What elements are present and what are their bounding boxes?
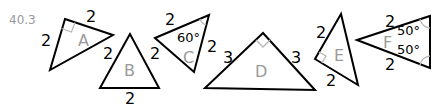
triangle-e: 2 2 E [315, 14, 358, 90]
angle-arc-f-top [420, 19, 430, 28]
triangle-name-c: C [183, 48, 194, 67]
side-label-d-left: 3 [223, 48, 233, 67]
side-label-c-top: 2 [165, 10, 175, 29]
triangle-c: 2 2 60° C [155, 10, 217, 72]
side-label-e-bottom: 2 [326, 71, 336, 90]
problem-number: 40.3 [9, 13, 36, 27]
triangle-name-a: A [78, 31, 89, 50]
side-label-b-right: 2 [150, 44, 160, 63]
triangle-name-d: D [255, 62, 267, 81]
angle-label-c: 60° [177, 30, 200, 45]
angle-arc-f-bottom [420, 56, 430, 65]
triangle-f: 2 2 50° 50° F [357, 12, 430, 74]
side-label-f-top: 2 [385, 12, 395, 31]
triangle-name-b: B [124, 61, 135, 80]
triangle-name-e: E [334, 46, 344, 65]
side-label-d-right: 3 [291, 48, 301, 67]
side-label-e-left: 2 [316, 23, 326, 42]
angle-label-f-top: 50° [397, 23, 420, 38]
side-label-f-bottom: 2 [385, 55, 395, 74]
angle-arc-c [200, 19, 206, 25]
diagram-stage: 40.3 2 2 A 2 2 2 B 2 2 60° C [0, 0, 439, 106]
angle-label-f-bottom: 50° [397, 42, 420, 57]
side-label-b-left: 2 [103, 44, 113, 63]
triangle-b: 2 2 2 B [100, 34, 160, 106]
triangle-name-f: F [383, 33, 392, 52]
right-angle-marker-d [256, 40, 270, 47]
triangle-d: 3 3 D [205, 33, 315, 90]
side-label-a-left: 2 [41, 31, 51, 50]
side-label-c-right: 2 [207, 37, 217, 56]
side-label-a-top: 2 [86, 7, 96, 26]
side-label-b-bottom: 2 [125, 89, 135, 106]
triangles-diagram: 2 2 A 2 2 2 B 2 2 60° C 3 3 D [0, 0, 439, 106]
